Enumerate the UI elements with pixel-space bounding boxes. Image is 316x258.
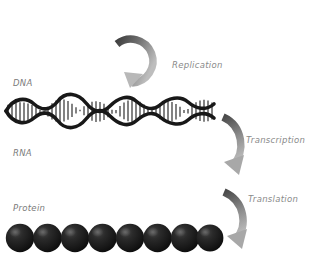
label-transcription: Transcription: [246, 135, 305, 145]
translation-arrow: [224, 192, 247, 249]
transcription-arrow: [223, 117, 244, 175]
dna-base-pairs: [8, 99, 212, 122]
label-translation: Translation: [248, 194, 298, 204]
dna-double-helix: [6, 94, 214, 127]
replication-arrow: [117, 39, 153, 88]
protein-bead: [171, 224, 199, 252]
protein-bead: [143, 224, 171, 252]
label-dna: DNA: [13, 78, 33, 88]
protein-bead: [197, 225, 224, 252]
label-replication: Replication: [172, 60, 223, 70]
label-rna: RNA: [13, 148, 32, 158]
rna-strand: [6, 173, 213, 187]
protein-bead: [6, 224, 34, 252]
dna-strand-a: [6, 94, 214, 111]
protein-bead-chain: [6, 224, 224, 252]
protein-bead: [61, 224, 89, 252]
rna-nucleotide-ticks: [7, 173, 212, 186]
protein-bead: [33, 224, 61, 252]
dna-strand-b: [6, 111, 214, 128]
label-protein: Protein: [13, 203, 45, 213]
protein-bead: [116, 224, 144, 252]
protein-bead: [88, 224, 116, 252]
central-dogma-diagram: DNA RNA Protein Replication Transcriptio…: [0, 0, 316, 258]
diagram-canvas: [0, 0, 316, 258]
